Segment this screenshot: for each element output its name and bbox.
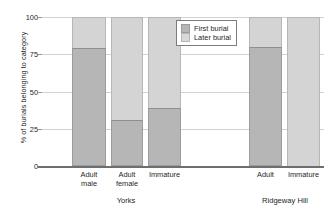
bar-segment-later-burial[interactable]: [287, 17, 320, 166]
legend-label-later-burial: Later burial: [194, 33, 231, 42]
x-axis-line: [38, 166, 324, 168]
x-category-label-line2: male: [72, 179, 106, 188]
y-tick-mark-50: [38, 92, 42, 93]
x-category-label-line1: Adult: [72, 170, 106, 179]
legend-item-first-burial: First burial: [181, 24, 231, 33]
x-category-label-line1: Adult: [111, 170, 143, 179]
bar-segment-first-burial[interactable]: [111, 120, 143, 166]
y-tick-label-100: 100: [12, 13, 38, 22]
x-category-label-1: Adultfemale: [111, 170, 143, 188]
y-tick-mark-25: [38, 129, 42, 130]
bar-segment-later-burial[interactable]: [249, 17, 282, 47]
x-category-label-line2: female: [111, 179, 143, 188]
x-category-label-line1: Immature: [148, 170, 181, 179]
y-tick-label-0: 0: [12, 162, 38, 171]
bar-1[interactable]: [111, 17, 143, 166]
x-group-label-0: Yorks: [66, 196, 186, 205]
bar-segment-later-burial[interactable]: [72, 17, 106, 48]
legend-label-first-burial: First burial: [194, 24, 229, 33]
legend-swatch-first-burial: [181, 24, 190, 33]
bar-segment-first-burial[interactable]: [72, 48, 106, 166]
bar-segment-first-burial[interactable]: [249, 47, 282, 166]
y-tick-mark-100: [38, 17, 42, 18]
y-tick-mark-75: [38, 54, 42, 55]
bar-segment-first-burial[interactable]: [148, 108, 181, 166]
x-group-label-1: Ridgeway Hill: [225, 196, 324, 205]
x-category-label-line1: Adult: [249, 170, 282, 179]
x-category-label-2: Immature: [148, 170, 181, 179]
x-category-label-3: Adult: [249, 170, 282, 179]
legend-swatch-later-burial: [181, 33, 190, 42]
y-tick-label-25: 25: [12, 124, 38, 133]
chart-legend: First burial Later burial: [176, 20, 237, 46]
y-tick-label-75: 75: [12, 50, 38, 59]
y-tick-label-50: 50: [12, 87, 38, 96]
bar-segment-later-burial[interactable]: [111, 17, 143, 120]
x-category-label-line1: Immature: [287, 170, 320, 179]
bar-4[interactable]: [287, 17, 320, 166]
x-category-label-4: Immature: [287, 170, 320, 179]
x-category-label-0: Adultmale: [72, 170, 106, 188]
bar-0[interactable]: [72, 17, 106, 166]
bar-3[interactable]: [249, 17, 282, 166]
stacked-bar-chart: % of burials belonging to category 10075…: [0, 0, 324, 218]
legend-item-later-burial: Later burial: [181, 33, 231, 42]
